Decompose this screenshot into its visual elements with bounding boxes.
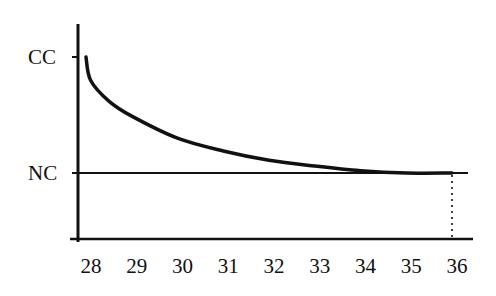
chart: CC NC 282930313233343536 [0, 0, 496, 296]
x-tick-label: 31 [218, 254, 239, 278]
x-tick-label: 35 [401, 254, 422, 278]
x-tick-label: 29 [126, 254, 147, 278]
y-label-cc: CC [28, 45, 56, 69]
x-tick-label: 36 [447, 254, 468, 278]
x-tick-label: 30 [172, 254, 193, 278]
x-tick-label: 28 [81, 254, 102, 278]
x-tick-label: 33 [309, 254, 330, 278]
x-tick-labels: 282930313233343536 [81, 254, 468, 278]
chart-svg: CC NC 282930313233343536 [0, 0, 496, 296]
x-tick-label: 32 [264, 254, 285, 278]
decay-curve [86, 57, 452, 173]
y-label-nc: NC [28, 161, 57, 185]
x-tick-label: 34 [355, 254, 377, 278]
